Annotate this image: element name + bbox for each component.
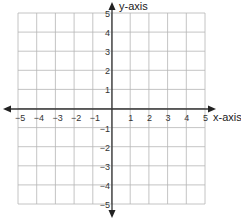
y-tick-label: 4: [105, 28, 110, 38]
y-tick-label: −3: [100, 162, 110, 172]
x-tick-label: −2: [71, 113, 81, 123]
y-axis-down-arrow-icon: [109, 210, 116, 218]
x-tick-label: 2: [147, 113, 152, 123]
x-tick-label: 3: [166, 113, 171, 123]
y-axis-label: y-axis: [119, 0, 148, 12]
x-tick-label: 4: [184, 113, 189, 123]
coordinate-plane: −5−4−3−2−11234554321−1−2−3−4−5 x-axis y-…: [0, 0, 241, 221]
x-axis-left-arrow-icon: [3, 106, 11, 113]
x-tick-label: −1: [90, 113, 100, 123]
x-tick-label: −4: [34, 113, 44, 123]
x-tick-label: 1: [128, 113, 133, 123]
x-axis-label: x-axis: [213, 111, 241, 123]
y-tick-label: −5: [100, 200, 110, 210]
x-tick-label: 5: [203, 113, 208, 123]
y-tick-label: −1: [100, 124, 110, 134]
x-tick-label: −3: [52, 113, 62, 123]
y-tick-label: 2: [105, 66, 110, 76]
y-tick-label: 5: [105, 9, 110, 19]
y-tick-label: −2: [100, 143, 110, 153]
y-tick-label: 3: [105, 47, 110, 57]
x-tick-label: −5: [15, 113, 25, 123]
y-tick-label: 1: [105, 85, 110, 95]
y-tick-label: −4: [100, 181, 110, 191]
